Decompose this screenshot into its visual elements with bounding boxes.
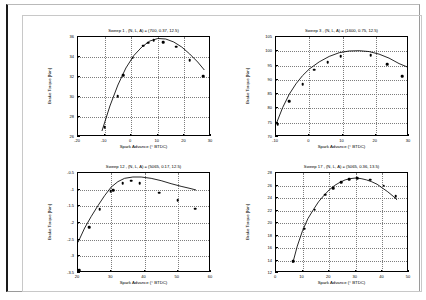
y-tick-label: 26: [253, 182, 272, 187]
data-point: [122, 182, 125, 185]
x-tick-mark: [275, 270, 276, 273]
x-tick-mark: [130, 134, 131, 137]
y-tick-label: 105: [253, 34, 272, 39]
y-tick-mark: [77, 255, 80, 256]
data-point: [147, 41, 150, 44]
x-tick-label: 40: [141, 274, 145, 279]
y-axis-label: Brake Torque [Nm]: [47, 68, 52, 104]
x-tick-label: 30: [208, 138, 212, 143]
y-tick-mark: [275, 172, 278, 173]
data-point: [332, 187, 335, 190]
y-tick-mark: [77, 189, 80, 190]
y-tick-label: -1.5: [55, 203, 74, 208]
x-tick-label: 20: [181, 138, 185, 143]
y-tick-label: -0.5: [55, 170, 74, 175]
data-point: [369, 179, 372, 182]
y-tick-mark: [275, 79, 278, 80]
y-tick-label: 85: [253, 91, 272, 96]
y-tick-mark: [275, 107, 278, 108]
y-tick-mark: [77, 56, 80, 57]
fit-curve: [276, 37, 409, 137]
x-tick-mark: [275, 134, 276, 137]
y-tick-label: -2: [55, 220, 74, 225]
y-tick-mark: [77, 239, 80, 240]
x-tick-label: 60: [208, 274, 212, 279]
y-tick-label: -1: [55, 186, 74, 191]
x-tick-label: 20: [326, 274, 330, 279]
data-point: [122, 74, 125, 77]
data-point: [202, 75, 205, 78]
data-point: [313, 209, 316, 212]
data-point: [162, 41, 165, 44]
x-tick-mark: [210, 134, 211, 137]
y-tick-label: 22: [253, 207, 272, 212]
data-point: [401, 75, 404, 78]
y-tick-label: 28: [253, 170, 272, 175]
y-tick-mark: [77, 172, 80, 173]
y-tick-label: 100: [253, 48, 272, 53]
chart-title: Sweep 17 , (N, L, A) = (5065, 0.36, 13.5…: [245, 164, 426, 169]
y-tick-label: 95: [253, 62, 272, 67]
x-tick-mark: [308, 134, 309, 137]
data-point: [301, 83, 304, 86]
y-tick-label: 26: [55, 134, 74, 139]
y-tick-label: -2.5: [55, 236, 74, 241]
data-point: [139, 182, 142, 185]
y-tick-label: 75: [253, 119, 272, 124]
y-tick-mark: [275, 235, 278, 236]
x-tick-label: -10: [272, 138, 278, 143]
y-tick-label: 20: [253, 220, 272, 225]
data-point: [142, 44, 145, 47]
x-tick-mark: [104, 134, 105, 137]
figure-container: Sweep 1 , (N, L, A) = (700, 0.37, 12.5)2…: [22, 15, 422, 292]
plot-area: [77, 36, 210, 136]
y-axis-label: Brake Torque [Nm]: [245, 204, 250, 240]
data-point: [292, 260, 295, 263]
y-tick-label: 18: [253, 232, 272, 237]
y-tick-mark: [275, 222, 278, 223]
y-tick-label: 24: [253, 195, 272, 200]
y-tick-label: 90: [253, 76, 272, 81]
x-tick-mark: [302, 270, 303, 273]
x-tick-mark: [110, 270, 111, 273]
x-axis-label: Spark Advance (° BTDC): [77, 280, 210, 285]
y-tick-label: 70: [253, 134, 272, 139]
x-tick-label: -10: [101, 138, 107, 143]
data-point: [117, 95, 120, 98]
data-point: [194, 207, 197, 210]
y-tick-mark: [275, 36, 278, 37]
data-point: [356, 177, 359, 180]
plot-area: [275, 36, 408, 136]
y-tick-label: 30: [55, 94, 74, 99]
data-point: [175, 45, 178, 48]
x-tick-label: 0: [274, 274, 276, 279]
document-page: Sweep 1 , (N, L, A) = (700, 0.37, 12.5)2…: [0, 0, 426, 300]
x-tick-label: 50: [406, 274, 410, 279]
data-point: [326, 61, 329, 64]
data-point: [176, 199, 179, 202]
data-point: [88, 226, 91, 229]
y-tick-mark: [275, 247, 278, 248]
x-tick-mark: [328, 270, 329, 273]
data-point: [158, 191, 161, 194]
y-tick-label: 32: [55, 74, 74, 79]
chart-panel-sweep-1: Sweep 1 , (N, L, A) = (700, 0.37, 12.5)2…: [25, 18, 223, 155]
y-axis-label: Brake Torque [Nm]: [245, 68, 250, 104]
x-tick-label: 10: [299, 274, 303, 279]
y-tick-label: 36: [55, 34, 74, 39]
fit-curve: [78, 173, 211, 273]
x-tick-mark: [408, 270, 409, 273]
x-tick-mark: [381, 270, 382, 273]
data-point: [98, 208, 101, 211]
x-tick-mark: [77, 270, 78, 273]
x-tick-label: 20: [75, 274, 79, 279]
x-tick-label: 20: [373, 138, 377, 143]
x-tick-mark: [408, 134, 409, 137]
data-point: [103, 126, 106, 129]
x-axis-label: Spark Advance (° BTDC): [77, 144, 210, 149]
data-point: [340, 181, 343, 184]
y-tick-mark: [275, 197, 278, 198]
plot-area: [77, 172, 210, 272]
x-tick-label: 10: [339, 138, 343, 143]
fit-curve: [78, 37, 211, 137]
